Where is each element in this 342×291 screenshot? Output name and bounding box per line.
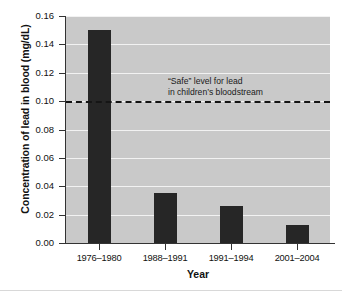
bar [220, 206, 243, 243]
y-axis-tick [59, 186, 65, 187]
safe-level-dashed-line [66, 101, 330, 103]
bar [88, 30, 111, 243]
safe-level-annotation: “Safe” level for lead in children’s bloo… [168, 76, 263, 98]
y-axis-line [65, 16, 66, 244]
y-axis-tick-label: 0.00 [14, 237, 54, 248]
y-axis-tick [59, 215, 65, 216]
y-axis-tick-label: 0.08 [14, 124, 54, 135]
x-axis-tick-label: 2001–2004 [257, 253, 337, 263]
y-axis-tick-label: 0.14 [14, 38, 54, 49]
y-axis-title: Concentration of lead in blood (mg/dL) [19, 0, 31, 239]
y-axis-tick-label: 0.02 [14, 209, 54, 220]
y-axis-tick [59, 101, 65, 102]
y-axis-tick [59, 158, 65, 159]
x-axis-title: Year [66, 268, 330, 280]
safe-level-annotation-line-2: in children’s bloodstream [168, 87, 263, 98]
y-axis-tick-label: 0.12 [14, 67, 54, 78]
gridline [66, 16, 330, 17]
bar [286, 225, 309, 243]
y-axis-tick [59, 44, 65, 45]
x-axis-tick [297, 243, 298, 250]
y-axis-tick-label: 0.16 [14, 10, 54, 21]
plot-area: “Safe” level for lead in children’s bloo… [66, 16, 330, 243]
y-axis-tick [59, 130, 65, 131]
y-axis-tick-label: 0.10 [14, 95, 54, 106]
y-axis-tick [59, 243, 65, 244]
x-axis-tick [165, 243, 166, 250]
y-axis-tick-label: 0.04 [14, 180, 54, 191]
x-axis-tick [231, 243, 232, 250]
y-axis-tick-label: 0.06 [14, 152, 54, 163]
x-axis-tick [99, 243, 100, 250]
lead-concentration-bar-chart: Concentration of lead in blood (mg/dL) “… [0, 0, 342, 291]
y-axis-tick [59, 16, 65, 17]
y-axis-tick [59, 73, 65, 74]
bar [154, 193, 177, 243]
x-axis-line [60, 243, 335, 244]
safe-level-annotation-line-1: “Safe” level for lead [168, 76, 263, 87]
